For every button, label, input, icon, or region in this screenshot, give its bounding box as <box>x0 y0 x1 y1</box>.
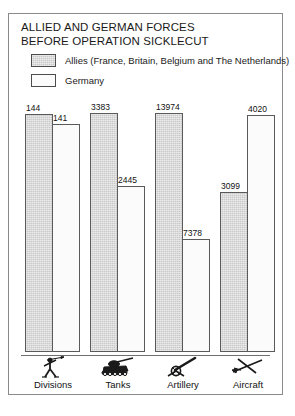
bars-artillery: 13974 7378 <box>155 92 211 352</box>
category-label-tanks: Tanks <box>90 379 146 390</box>
category-label-divisions: Divisions <box>25 379 81 390</box>
bar-value-tanks-germany: 2445 <box>118 175 137 185</box>
bars-aircraft: 3099 4020 <box>220 92 276 352</box>
soldier-icon <box>38 356 68 378</box>
category-aircraft: Aircraft <box>220 356 276 390</box>
bar-group-artillery: 13974 7378 Artillery <box>155 53 211 394</box>
category-label-aircraft: Aircraft <box>220 379 276 390</box>
bar-value-divisions-allies: 144 <box>26 103 40 113</box>
bar-group-aircraft: 3099 4020 Aircraft <box>220 53 276 394</box>
bar-value-tanks-allies: 3383 <box>91 102 110 112</box>
bar-divisions-allies[interactable] <box>25 114 53 352</box>
tank-icon <box>101 356 135 378</box>
bars-tanks: 3383 2445 <box>90 92 146 352</box>
bar-group-divisions: 144 141 <box>25 53 81 394</box>
bar-tanks-allies[interactable] <box>90 113 118 352</box>
bar-value-artillery-allies: 13974 <box>156 102 180 112</box>
category-tanks: Tanks <box>90 356 146 390</box>
airplane-icon <box>231 356 265 378</box>
bar-aircraft-allies[interactable] <box>220 192 248 352</box>
bar-group-tanks: 3383 2445 Tan <box>90 53 146 394</box>
bar-aircraft-germany[interactable] <box>247 115 275 352</box>
bar-artillery-germany[interactable] <box>182 239 210 352</box>
bar-tanks-germany[interactable] <box>117 186 145 352</box>
bar-value-aircraft-germany: 4020 <box>248 104 267 114</box>
category-label-artillery: Artillery <box>155 379 211 390</box>
bar-divisions-germany[interactable] <box>52 124 80 352</box>
cannon-icon <box>167 356 199 378</box>
bar-value-divisions-germany: 141 <box>53 113 67 123</box>
bar-value-aircraft-allies: 3099 <box>221 181 240 191</box>
bars-divisions: 144 141 <box>25 92 81 352</box>
bar-value-artillery-germany: 7378 <box>183 228 202 238</box>
plot-area: 144 141 <box>9 14 282 394</box>
category-divisions: Divisions <box>25 356 81 390</box>
chart-frame: ALLIED AND GERMAN FORCES BEFORE OPERATIO… <box>8 13 283 395</box>
bar-artillery-allies[interactable] <box>155 113 183 352</box>
category-artillery: Artillery <box>155 356 211 390</box>
